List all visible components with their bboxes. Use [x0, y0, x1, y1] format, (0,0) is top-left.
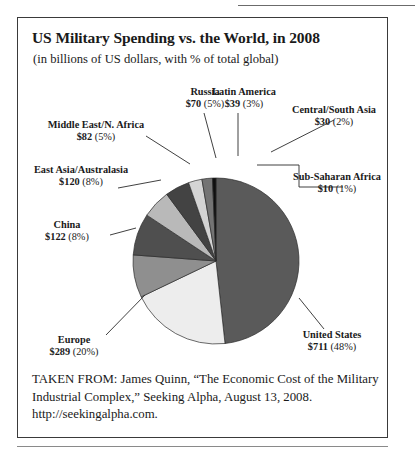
label-sub-saharan-africa-percent: (1%) [336, 183, 357, 194]
pie-slices [133, 178, 299, 344]
label-europe-percent: (20%) [73, 346, 99, 357]
page-top-rule [238, 5, 415, 6]
leader-line-china [110, 228, 136, 235]
caption-line-1: TAKEN FROM: James Quinn, “The Economic C… [32, 371, 377, 389]
label-middle-east-percent: (5%) [95, 131, 116, 142]
label-united-states-name: United States [283, 329, 381, 341]
pie-slice-united-states [216, 178, 299, 344]
label-east-asia-value: $120 [59, 176, 80, 187]
label-china-value: $122 [45, 231, 66, 242]
label-sub-saharan-africa: Sub-Saharan Africa $10 (1%) [281, 171, 393, 195]
label-united-states: United States $711 (48%) [283, 329, 381, 353]
figure-caption: TAKEN FROM: James Quinn, “The Economic C… [32, 371, 377, 424]
label-latin-america: Latin America $39 (3%) [196, 86, 292, 110]
label-latin-america-value: $39 [225, 98, 240, 109]
label-east-asia-name: East Asia/Australasia [16, 164, 146, 176]
figure-title: US Military Spending vs. the World, in 2… [32, 29, 320, 47]
label-middle-east-name: Middle East/N. Africa [34, 119, 158, 131]
leader-line-united-states [299, 298, 324, 329]
label-europe-name: Europe [38, 334, 110, 346]
label-middle-east: Middle East/N. Africa $82 (5%) [34, 119, 158, 143]
label-central-south-asia-percent: (2%) [333, 116, 354, 127]
label-sub-saharan-africa-name: Sub-Saharan Africa [281, 171, 393, 183]
label-latin-america-percent: (3%) [243, 98, 264, 109]
label-east-asia-percent: (8%) [82, 176, 103, 187]
label-central-south-asia-value: $30 [315, 116, 330, 127]
label-europe: Europe $289 (20%) [38, 334, 110, 358]
label-china-name: China [32, 219, 102, 231]
caption-line-2: Industrial Complex,” Seeking Alpha, Augu… [32, 389, 377, 407]
label-united-states-percent: (48%) [330, 341, 356, 352]
caption-line-3: http://seekingalpha.com. [32, 406, 377, 424]
label-sub-saharan-africa-value: $10 [318, 183, 333, 194]
label-east-asia: East Asia/Australasia $120 (8%) [16, 164, 146, 188]
label-china-percent: (8%) [68, 231, 89, 242]
leader-line-europe [106, 295, 145, 335]
label-latin-america-name: Latin America [196, 86, 292, 98]
figure-subtitle: (in billions of US dollars, with % of to… [33, 52, 279, 67]
page-bottom-rule [17, 446, 388, 447]
label-middle-east-value: $82 [77, 131, 92, 142]
pie-chart: Russia $70 (5%) Latin America $39 (3%) C… [18, 68, 387, 365]
label-united-states-value: $711 [308, 341, 328, 352]
label-china: China $122 (8%) [32, 219, 102, 243]
label-central-south-asia-name: Central/South Asia [280, 104, 388, 116]
leader-line-russia [204, 113, 216, 158]
label-central-south-asia: Central/South Asia $30 (2%) [280, 104, 388, 128]
figure-container: US Military Spending vs. the World, in 2… [17, 17, 388, 438]
label-europe-value: $289 [50, 346, 71, 357]
